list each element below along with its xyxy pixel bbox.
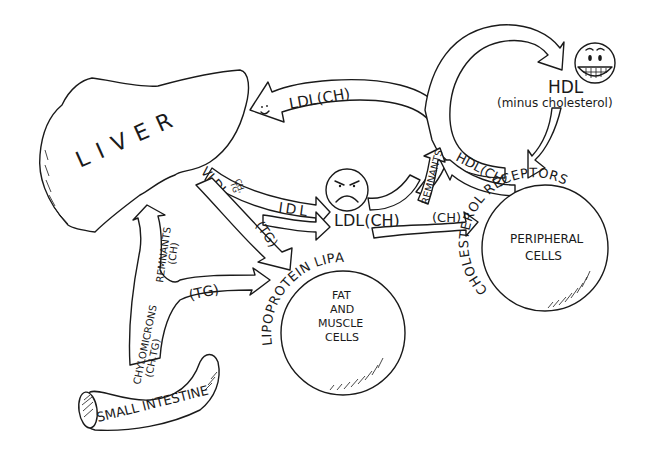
angry-face-icon (326, 169, 368, 211)
idl-label: IDL (278, 199, 312, 219)
remnants-left-sub: (CH) (166, 242, 180, 266)
remnants-right-label: REMNANTS (419, 148, 444, 205)
fat-line-1: FAT (332, 289, 351, 302)
lipoprotein-diagram: LIVER LDL(CH) HDL (minus cholesterol) (0, 0, 664, 455)
peripheral-line-2: CELLS (525, 249, 562, 263)
ldl-remnants-loop (368, 175, 420, 210)
fat-line-4: CELLS (325, 331, 359, 344)
fat-line-3: MUSCLE (318, 317, 363, 330)
hdl-subtitle: (minus cholesterol) (497, 96, 613, 110)
peripheral-line-1: PERIPHERAL (510, 232, 584, 246)
ldl-ch-label: (CH) (432, 210, 461, 225)
fat-line-2: AND (330, 303, 354, 316)
remnants-arrow-right: REMNANTS (418, 148, 445, 206)
hdl-title: HDL (548, 77, 584, 97)
